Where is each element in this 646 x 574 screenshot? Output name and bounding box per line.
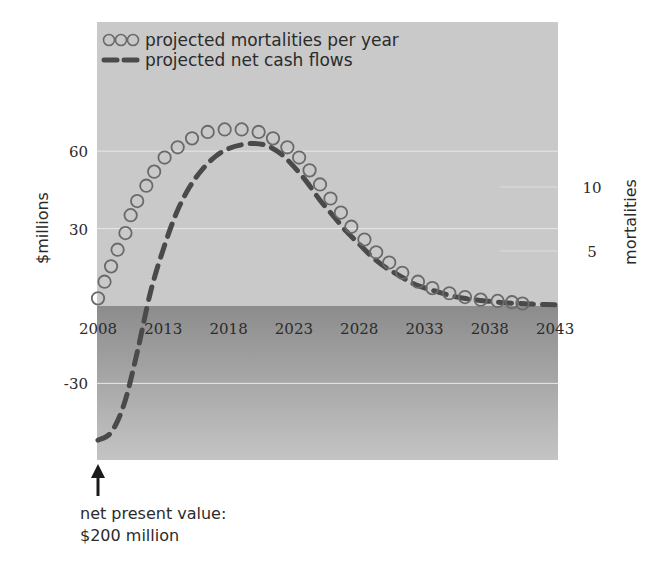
arrow-up-icon [91, 464, 105, 496]
x-tick-label: 2018 [210, 320, 248, 338]
legend-label-cash-flows: projected net cash flows [145, 50, 353, 70]
x-tick-label: 2028 [340, 320, 378, 338]
legend-label-mortalities: projected mortalities per year [145, 30, 399, 50]
left-tick-label: -30 [64, 375, 88, 393]
npv-annotation: net present value: $200 million [80, 503, 226, 547]
x-tick-label: 2043 [536, 320, 574, 338]
right-tick-label: 10 [582, 179, 601, 197]
left-tick-label: 60 [69, 143, 88, 161]
x-tick-label: 2033 [405, 320, 443, 338]
npv-annotation-line2: $200 million [80, 525, 226, 547]
x-tick-label: 2013 [144, 320, 182, 338]
right-tick-label: 5 [587, 243, 597, 261]
right-axis-title: mortalities [621, 179, 640, 265]
plot-background [97, 22, 558, 460]
npv-annotation-line1: net present value: [80, 503, 226, 525]
x-tick-label: 2038 [471, 320, 509, 338]
chart: 6030-30105200820132018202320282033203820… [0, 0, 646, 574]
left-axis-title: $millions [33, 192, 52, 264]
x-tick-label: 2023 [275, 320, 313, 338]
left-tick-label: 30 [69, 221, 88, 239]
x-tick-label: 2008 [79, 320, 117, 338]
